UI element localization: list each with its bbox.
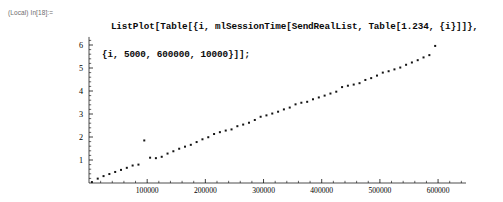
data-point (318, 96, 320, 98)
data-point (184, 146, 186, 148)
y-tick-label: 4 (79, 87, 83, 96)
data-point (393, 68, 395, 70)
data-point (108, 173, 110, 175)
data-point (126, 167, 128, 169)
data-point (207, 136, 209, 138)
data-point (103, 175, 105, 177)
data-point (271, 113, 273, 115)
plot-axes (89, 37, 466, 183)
data-point (312, 98, 314, 100)
data-point (428, 54, 430, 56)
data-point (364, 79, 366, 81)
data-point (417, 59, 419, 61)
cell-input-label: (Local) In[18]:= (8, 9, 53, 16)
data-point (97, 178, 99, 180)
x-tick-label: 500000 (369, 186, 392, 195)
data-point (178, 148, 180, 150)
y-tick-label: 6 (79, 41, 83, 50)
data-point (353, 84, 355, 86)
data-point (329, 93, 331, 95)
data-point (225, 130, 227, 132)
data-point (260, 116, 262, 118)
y-tick-label: 1 (79, 156, 83, 165)
x-tick-label: 200000 (194, 186, 217, 195)
data-point (132, 165, 134, 167)
data-point (341, 86, 343, 88)
data-point (120, 169, 122, 171)
plot-tick-labels: 1000002000003000004000005000006000001234… (79, 41, 450, 195)
data-point (306, 101, 308, 103)
data-point (277, 111, 279, 113)
notebook-page: (Local) In[18]:= ListPlot[Table[{i, mlSe… (0, 0, 503, 202)
data-point (335, 91, 337, 93)
data-point (265, 114, 267, 116)
data-point (254, 119, 256, 121)
data-point (399, 67, 401, 69)
data-point (236, 125, 238, 127)
data-point (370, 77, 372, 79)
data-point (376, 75, 378, 77)
listplot-output[interactable]: 1000002000003000004000005000006000001234… (0, 36, 503, 202)
y-tick-label: 5 (79, 64, 83, 73)
data-point (295, 103, 297, 105)
data-point (405, 64, 407, 66)
data-point (411, 61, 413, 63)
data-points (91, 45, 436, 183)
code-line-1: ListPlot[Table[{i, mlSessionTime[SendRea… (111, 21, 478, 32)
data-point (300, 102, 302, 104)
data-point (289, 107, 291, 109)
data-point (219, 131, 221, 133)
data-point (161, 156, 163, 158)
data-point (196, 141, 198, 143)
data-point (242, 124, 244, 126)
data-point (190, 144, 192, 146)
data-point (149, 157, 151, 159)
data-point (114, 171, 116, 173)
data-point (324, 95, 326, 97)
data-point (167, 153, 169, 155)
x-tick-label: 400000 (310, 186, 333, 195)
data-point (347, 85, 349, 87)
data-point (172, 150, 174, 152)
data-point (213, 133, 215, 135)
x-tick-label: 100000 (136, 186, 159, 195)
data-point (248, 122, 250, 124)
x-tick-label: 300000 (252, 186, 275, 195)
data-point (359, 82, 361, 84)
data-point (231, 128, 233, 130)
plot-ticks (89, 40, 461, 183)
scatter-plot: 1000002000003000004000005000006000001234… (0, 36, 503, 202)
data-point (155, 157, 157, 159)
data-point (388, 70, 390, 72)
data-point (201, 138, 203, 140)
x-tick-label: 600000 (427, 186, 450, 195)
data-point (143, 139, 145, 141)
data-point (423, 56, 425, 58)
y-tick-label: 2 (79, 133, 83, 142)
data-point (434, 45, 436, 47)
data-point (382, 72, 384, 74)
data-point (137, 164, 139, 166)
y-tick-label: 3 (79, 110, 83, 119)
data-point (283, 108, 285, 110)
data-point (91, 181, 93, 183)
